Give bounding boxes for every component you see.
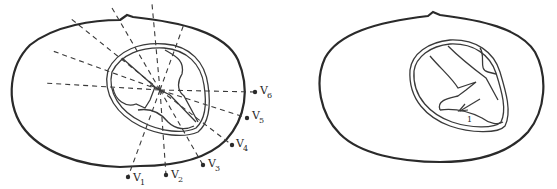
right-torso-outline: [320, 12, 544, 162]
depolarization-vector-arrow: [459, 99, 480, 111]
lead-axis-lines: [44, 4, 255, 177]
svg-text:1: 1: [140, 178, 145, 187]
right-heart: [410, 40, 508, 132]
svg-text:6: 6: [267, 91, 272, 100]
left-panel: V 1 V 2 V 3 V 4 V 5 V 6: [12, 4, 272, 187]
left-heart: [107, 44, 210, 136]
svg-text:4: 4: [243, 144, 248, 153]
right-panel: 1: [320, 12, 544, 162]
svg-text:3: 3: [215, 164, 220, 173]
svg-text:2: 2: [178, 175, 183, 184]
diagram-canvas: V 1 V 2 V 3 V 4 V 5 V 6 1: [0, 0, 557, 189]
vector-label: 1: [467, 115, 472, 124]
svg-text:5: 5: [259, 116, 264, 125]
lead-labels: V 1 V 2 V 3 V 4 V 5 V 6: [132, 84, 272, 187]
